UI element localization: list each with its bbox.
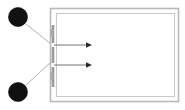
upper-source-node [9,8,28,27]
lower-source-node [9,83,28,102]
diagram-canvas [0,0,185,110]
schematic-diagram [0,0,185,110]
